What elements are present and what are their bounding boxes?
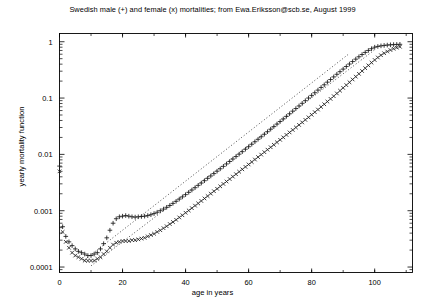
svg-text:0: 0 — [57, 278, 61, 287]
axis-tick-labels: 02040608010010.10.010.0010.0001 — [30, 38, 381, 287]
svg-text:0.1: 0.1 — [42, 94, 52, 103]
series-male-markers — [57, 42, 402, 258]
reference-lines — [85, 50, 375, 266]
axes-frame — [60, 34, 413, 273]
series-female-markers — [58, 45, 402, 262]
svg-text:0.01: 0.01 — [38, 150, 52, 159]
svg-text:100: 100 — [369, 278, 381, 287]
plot-area: 02040608010010.10.010.0010.0001 — [0, 0, 425, 307]
svg-text:40: 40 — [181, 278, 189, 287]
svg-text:0.0001: 0.0001 — [30, 263, 53, 272]
axis-ticks — [60, 34, 413, 273]
svg-text:20: 20 — [118, 278, 126, 287]
svg-text:0.001: 0.001 — [34, 207, 53, 216]
svg-text:1: 1 — [48, 38, 52, 47]
mortality-chart-figure: Swedish male (+) and female (x) mortalit… — [0, 0, 425, 307]
svg-text:80: 80 — [308, 278, 316, 287]
svg-text:60: 60 — [244, 278, 252, 287]
